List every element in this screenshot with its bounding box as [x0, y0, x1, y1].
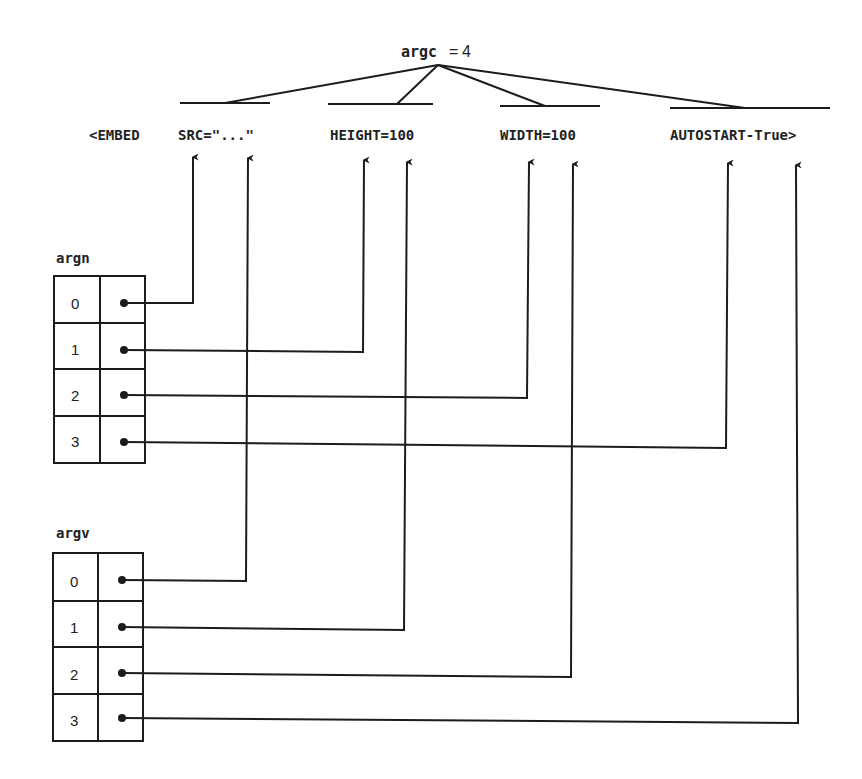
argv-title: argv: [56, 525, 90, 541]
attr-height: HEIGHT=100: [330, 127, 414, 143]
svg-text:=: =: [449, 43, 458, 60]
argc-label: argc = 4: [401, 43, 471, 61]
argv-index-1: 1: [70, 619, 78, 636]
argv-pointers: [122, 158, 798, 723]
attr-src: SRC="...": [178, 127, 254, 143]
argc-argn-argv-diagram: argc = 4 <EMBED SRC="..." HEIGHT=100 WID…: [0, 0, 862, 779]
svg-text:4: 4: [462, 43, 471, 60]
argc-fan-lines: [225, 65, 745, 108]
argn-index-2: 2: [71, 387, 79, 404]
argn-index-1: 1: [71, 341, 79, 358]
argn-title: argn: [56, 250, 90, 266]
embed-tag: <EMBED SRC="..." HEIGHT=100 WIDTH=100 AU…: [89, 127, 796, 143]
attr-autostart: AUTOSTART-True>: [670, 127, 796, 143]
embed-open: <EMBED: [89, 127, 140, 143]
attr-width: WIDTH=100: [500, 127, 576, 143]
argn-pointers: [124, 157, 728, 448]
svg-text:argc: argc: [401, 43, 437, 61]
argv-index-0: 0: [70, 573, 78, 590]
argn-index-3: 3: [71, 433, 79, 450]
argv-index-2: 2: [70, 666, 78, 683]
argn-array: argn 0 1 2 3: [54, 250, 145, 463]
argn-index-0: 0: [71, 295, 79, 312]
argv-array: argv 0 1 2 3: [53, 525, 143, 741]
argv-index-3: 3: [70, 712, 78, 729]
